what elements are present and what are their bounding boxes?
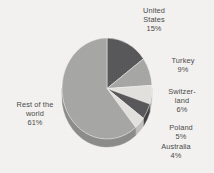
- pie-slices: [62, 38, 152, 139]
- pie-label-australia: Australia 4%: [146, 142, 206, 160]
- pie-label-united-states: United States 15%: [122, 6, 186, 34]
- pie-chart-figure: United States 15% Turkey 9% Switzer- lan…: [0, 0, 214, 173]
- pie-label-turkey: Turkey 9%: [154, 56, 212, 74]
- pie-label-rest-of-world: Rest of the world 61%: [2, 100, 68, 128]
- pie-label-poland: Poland 5%: [152, 123, 210, 141]
- pie-label-switzerland: Switzer- land 6%: [152, 87, 212, 115]
